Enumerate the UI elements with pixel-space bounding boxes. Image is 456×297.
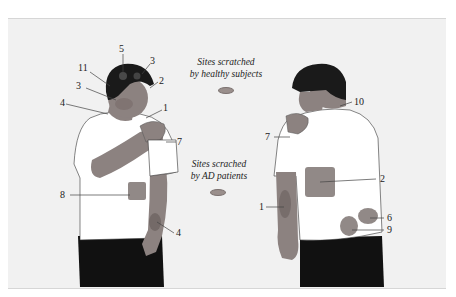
front-cheek-site [115, 98, 133, 110]
legend-ad-line2: by AD patients [159, 170, 279, 182]
back-label-1: 1 [259, 202, 264, 212]
front-label-3-scalp: 3 [150, 56, 155, 66]
back-label-9: 9 [387, 225, 392, 235]
front-label-1: 1 [163, 103, 168, 113]
back-site-6 [358, 208, 378, 224]
front-forearm-site-4 [149, 213, 161, 231]
front-scalp-site-3 [134, 73, 141, 80]
back-pants [300, 236, 384, 287]
back-face [299, 92, 326, 112]
back-figure [274, 64, 384, 287]
back-arm-site-1 [279, 190, 291, 218]
front-abdomen-site-8 [128, 182, 146, 200]
front-label-4-forearm: 4 [176, 228, 181, 238]
back-label-6: 6 [387, 213, 392, 223]
figures-illustration [0, 0, 456, 297]
legend-healthy-line2: by healthy subjects [166, 68, 286, 80]
legend-healthy: Sites scratched by healthy subjects [166, 56, 286, 80]
legend-ad-line1: Sites scrached [159, 158, 279, 170]
back-label-10: 10 [354, 97, 364, 107]
front-scalp-site-5 [119, 72, 127, 80]
front-label-11: 11 [78, 63, 88, 73]
legend-ad-swatch [210, 189, 226, 196]
back-label-2: 2 [380, 174, 385, 184]
front-label-2: 2 [159, 76, 164, 86]
front-label-4-neck: 4 [60, 98, 65, 108]
back-label-7: 7 [265, 132, 270, 142]
back-site-9 [340, 216, 358, 236]
legend-healthy-line1: Sites scratched [166, 56, 286, 68]
legend-healthy-swatch [218, 87, 234, 94]
front-label-8: 8 [60, 190, 65, 200]
front-label-7: 7 [177, 137, 182, 147]
legend-ad: Sites scrached by AD patients [159, 158, 279, 182]
front-label-3-cheek: 3 [76, 81, 81, 91]
front-label-5: 5 [119, 44, 124, 54]
